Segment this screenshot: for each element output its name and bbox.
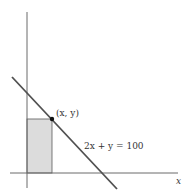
shaded-rectangle (27, 119, 52, 173)
x-axis-label: x (176, 176, 181, 186)
point-marker (50, 117, 54, 121)
diagram-canvas: (x, y) 2x + y = 100 x (0, 0, 190, 195)
point-label: (x, y) (56, 108, 79, 118)
equation-label: 2x + y = 100 (84, 141, 144, 151)
